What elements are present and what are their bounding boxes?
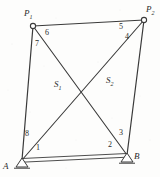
node-label-b: B	[134, 152, 140, 161]
area-label-s2: S2	[106, 76, 114, 87]
angle-label-6: 6	[45, 29, 49, 37]
node-label-p1-sub: 1	[30, 14, 33, 20]
member-left	[22, 26, 33, 160]
area-label-s1: S1	[54, 80, 62, 91]
node-marker-p1-hinge-icon	[30, 23, 35, 28]
area-label-s1-sub: 1	[59, 85, 62, 91]
angle-label-3: 3	[119, 129, 123, 137]
angle-label-5: 5	[119, 23, 123, 31]
member-diagonal-p1-b	[33, 26, 127, 155]
angle-label-2: 2	[108, 141, 112, 149]
node-label-p2-sub: 2	[152, 10, 155, 16]
node-marker-a-pin-support-icon	[16, 158, 28, 167]
node-label-a-letter: A	[3, 161, 9, 171]
area-label-s2-sub: 2	[111, 81, 114, 87]
member-diagonal-p2-a	[22, 20, 144, 160]
member-right	[127, 20, 144, 155]
node-marker-p2-hinge-icon	[141, 17, 146, 22]
angle-label-7: 7	[35, 40, 39, 48]
node-label-p2: P2	[146, 5, 155, 16]
node-label-b-letter: B	[134, 151, 140, 161]
angle-label-4: 4	[125, 33, 129, 41]
node-label-p1: P1	[24, 9, 33, 20]
angle-label-1: 1	[36, 144, 40, 152]
truss-figure: P1 P2 A B S1 S2 1 2 3 4 5 6 7 8	[0, 0, 160, 177]
angle-label-8: 8	[25, 130, 29, 138]
members-group	[22, 20, 144, 162]
node-label-a: A	[3, 162, 9, 171]
member-top	[33, 20, 144, 26]
